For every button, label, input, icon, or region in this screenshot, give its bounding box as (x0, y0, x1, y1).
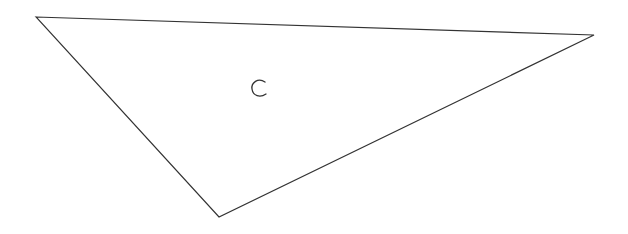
diagram-canvas: C (0, 0, 628, 234)
triangle-diagram: C (0, 0, 628, 234)
triangle-shape (36, 17, 594, 217)
